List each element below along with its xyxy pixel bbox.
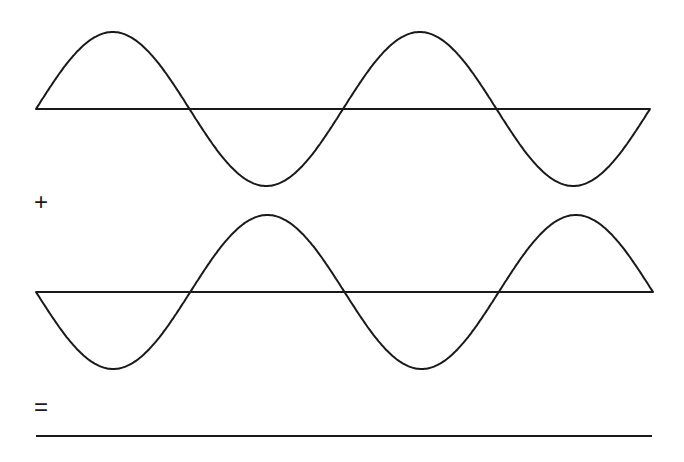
wave-2 — [36, 215, 653, 369]
wave-1 — [36, 32, 650, 186]
equals-operator: = — [34, 395, 48, 419]
interference-diagram — [0, 0, 684, 462]
plus-operator: + — [34, 190, 48, 214]
